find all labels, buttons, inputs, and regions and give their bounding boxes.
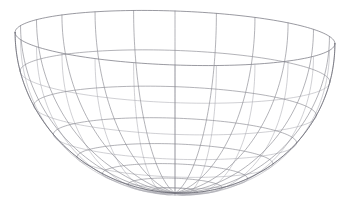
meridian-2: [175, 56, 313, 194]
mesh-front-faces: [15, 10, 335, 193]
meridian-5: [175, 66, 216, 196]
hemisphere-wireframe-svg: [0, 0, 351, 209]
meridian-22: [175, 29, 313, 193]
meridian-7: [134, 63, 175, 195]
meridian-1: [175, 50, 329, 193]
meridian-11: [21, 40, 175, 193]
meridian-14: [37, 20, 175, 193]
meridian-9: [62, 53, 175, 194]
meridian-21: [175, 23, 288, 193]
wireframe-viewport: [0, 0, 351, 209]
meridian-3: [175, 61, 288, 195]
